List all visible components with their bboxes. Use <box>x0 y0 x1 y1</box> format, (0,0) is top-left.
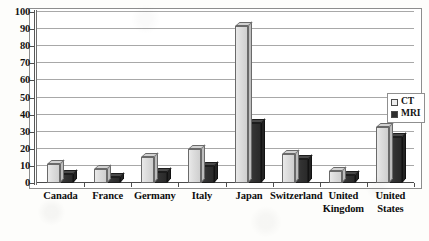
y-axis-tick-label: 90 <box>4 24 30 35</box>
chart-figure: 1009080706050403020100 CanadaFranceGerma… <box>0 0 429 241</box>
x-axis-labels: CanadaFranceGermanyItalyJapanSwitzerland… <box>29 190 422 230</box>
bar-face <box>188 149 201 183</box>
y-axis-labels: 1009080706050403020100 <box>0 0 30 200</box>
y-axis-tick-label: 10 <box>4 161 30 172</box>
bar-ct <box>376 127 389 183</box>
bar-side <box>389 122 393 183</box>
legend-swatch-ct-icon <box>391 99 398 106</box>
plot-area <box>37 12 414 183</box>
legend-swatch-mri-icon <box>391 111 398 118</box>
x-axis-tickmarks <box>37 183 414 189</box>
y-axis-tick-label: 20 <box>4 144 30 155</box>
y-axis-tick-label: 100 <box>4 7 30 18</box>
y-axis-tick-label: 60 <box>4 75 30 86</box>
legend-label: CT <box>401 97 414 107</box>
bar-group <box>320 12 367 183</box>
y-axis-line <box>34 10 37 185</box>
bar-side <box>295 149 299 183</box>
bar-side <box>154 153 158 183</box>
bar-face <box>376 127 389 183</box>
y-axis-tick-label: 40 <box>4 110 30 121</box>
x-axis-label-line: United <box>361 190 420 203</box>
bar-ct <box>188 149 201 183</box>
y-axis-tick-label: 30 <box>4 127 30 138</box>
bar-group <box>131 12 178 183</box>
bar-side <box>308 154 312 183</box>
bar-group <box>226 12 273 183</box>
y-axis-tick-label: 80 <box>4 41 30 52</box>
chart-legend: CTMRI <box>387 93 425 123</box>
bar-face <box>47 164 60 183</box>
bar-ct <box>94 169 107 183</box>
bar-group <box>37 12 84 183</box>
x-axis-tickmark <box>178 183 179 187</box>
legend-item-mri: MRI <box>391 108 421 120</box>
legend-item-ct: CT <box>391 96 421 108</box>
bar-ct <box>141 157 154 183</box>
x-axis-tickmark <box>226 183 227 187</box>
y-axis-tick-label: 0 <box>4 178 30 189</box>
legend-label: MRI <box>401 109 421 119</box>
bar-side <box>201 144 205 183</box>
x-axis-tickmark <box>320 183 321 187</box>
bar-ct <box>282 154 295 183</box>
x-axis-tickmark <box>131 183 132 187</box>
bar-face <box>282 154 295 183</box>
bar-side <box>402 132 406 183</box>
bar-face <box>329 171 342 183</box>
bar-group <box>178 12 225 183</box>
y-axis-tick-label: 70 <box>4 58 30 69</box>
x-axis-tickmark <box>414 183 415 187</box>
bar-group <box>84 12 131 183</box>
x-axis-category-label: UnitedStates <box>361 190 420 215</box>
x-axis-tickmark <box>273 183 274 187</box>
x-axis-tickmark <box>367 183 368 187</box>
bar-side <box>261 118 265 183</box>
x-axis-tickmark <box>84 183 85 187</box>
bar-face <box>235 26 248 183</box>
bar-ct <box>329 171 342 183</box>
bar-ct <box>47 164 60 183</box>
bar-ct <box>235 26 248 183</box>
x-axis-label-line: States <box>361 203 420 216</box>
bar-group <box>273 12 320 183</box>
bar-face <box>141 157 154 183</box>
y-axis-tick-label: 50 <box>4 93 30 104</box>
bar-face <box>94 169 107 183</box>
bar-side <box>248 21 252 183</box>
